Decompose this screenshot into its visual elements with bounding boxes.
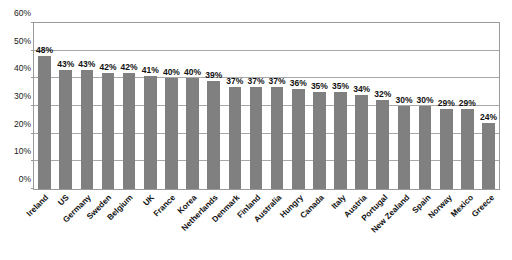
x-axis-label-slot: Finland	[245, 191, 266, 260]
bar-slot: 35%	[330, 23, 351, 189]
y-axis-tick-label: 0%	[19, 174, 31, 184]
y-axis-tick-label: 20%	[14, 119, 31, 129]
x-axis-label: UK	[141, 193, 156, 208]
bar[interactable]: 41%	[144, 76, 157, 189]
bar[interactable]: 42%	[102, 73, 115, 189]
bar-value-label: 43%	[57, 59, 74, 69]
bar-slot: 43%	[76, 23, 97, 189]
bar-value-label: 35%	[332, 81, 349, 91]
bar-slot: 39%	[203, 23, 224, 189]
x-axis-label-slot: Australia	[267, 191, 288, 260]
bar-slot: 37%	[267, 23, 288, 189]
bar-slot: 32%	[372, 23, 393, 189]
bar[interactable]: 43%	[59, 70, 72, 189]
bar-slot: 40%	[182, 23, 203, 189]
bar[interactable]: 37%	[229, 87, 242, 189]
y-axis-tick-label: 30%	[14, 91, 31, 101]
x-axis-label-slot: Norway	[436, 191, 457, 260]
bar-slot: 29%	[457, 23, 478, 189]
x-axis-label: US	[57, 193, 71, 207]
x-axis-label-slot: France	[160, 191, 181, 260]
y-axis-tick-label: 40%	[14, 63, 31, 73]
bar-value-label: 43%	[78, 59, 95, 69]
bar-value-label: 30%	[395, 95, 412, 105]
bar[interactable]: 43%	[81, 70, 94, 189]
bar-slot: 41%	[140, 23, 161, 189]
bar[interactable]: 37%	[271, 87, 284, 189]
x-axis-label-slot: Austria	[352, 191, 373, 260]
x-axis-label-slot: Belgium	[118, 191, 139, 260]
bar[interactable]: 39%	[207, 81, 220, 189]
y-axis-tick-label: 10%	[14, 146, 31, 156]
bar[interactable]: 29%	[440, 109, 453, 189]
x-axis-label-slot: Ireland	[33, 191, 54, 260]
bar-value-label: 39%	[205, 70, 222, 80]
bar[interactable]: 32%	[376, 100, 389, 189]
bar-slot: 24%	[478, 23, 499, 189]
bar[interactable]: 35%	[313, 92, 326, 189]
bar[interactable]: 24%	[482, 123, 495, 189]
bar-slot: 37%	[224, 23, 245, 189]
bar[interactable]: 37%	[250, 87, 263, 189]
bar[interactable]: 34%	[355, 95, 368, 189]
bar-value-label: 40%	[163, 67, 180, 77]
bar[interactable]: 40%	[165, 78, 178, 189]
bar-value-label: 37%	[269, 76, 286, 86]
x-axis-label-slot: Hungry	[288, 191, 309, 260]
bar-value-label: 42%	[121, 62, 138, 72]
bar-value-label: 37%	[226, 76, 243, 86]
bar-slot: 48%	[34, 23, 55, 189]
bar-value-label: 48%	[36, 45, 53, 55]
x-axis-label-slot: Italy	[330, 191, 351, 260]
bar-chart: 0%10%20%30%40%50%60% 48%43%43%42%42%41%4…	[0, 0, 512, 260]
x-axis-label-slot: Spain	[415, 191, 436, 260]
bar[interactable]: 29%	[461, 109, 474, 189]
x-axis-label-slot: UK	[139, 191, 160, 260]
bar-series: 48%43%43%42%42%41%40%40%39%37%37%37%36%3…	[34, 23, 499, 189]
bar-slot: 34%	[351, 23, 372, 189]
bar-slot: 43%	[55, 23, 76, 189]
bar-slot: 35%	[309, 23, 330, 189]
x-axis-label-slot: US	[54, 191, 75, 260]
bar-value-label: 36%	[290, 78, 307, 88]
bar-slot: 42%	[119, 23, 140, 189]
bar-value-label: 42%	[99, 62, 116, 72]
x-axis-labels: IrelandUSGermanySwedenBelgiumUKFranceKor…	[33, 191, 500, 260]
x-axis-label-slot: Mexico	[458, 191, 479, 260]
x-axis-label-slot: Canada	[309, 191, 330, 260]
bar-value-label: 30%	[417, 95, 434, 105]
bar[interactable]: 35%	[334, 92, 347, 189]
bar-slot: 42%	[97, 23, 118, 189]
bar-value-label: 24%	[480, 112, 497, 122]
bar-value-label: 40%	[184, 67, 201, 77]
bar-value-label: 32%	[374, 89, 391, 99]
x-axis-label-slot: Germany	[75, 191, 96, 260]
x-axis-label: Ireland	[25, 193, 50, 218]
bar-value-label: 37%	[247, 76, 264, 86]
bar[interactable]: 30%	[419, 106, 432, 189]
bar-slot: 40%	[161, 23, 182, 189]
bar[interactable]: 42%	[123, 73, 136, 189]
x-axis-label-slot: Denmark	[224, 191, 245, 260]
plot-area: 0%10%20%30%40%50%60% 48%43%43%42%42%41%4…	[33, 22, 500, 190]
bar-slot: 30%	[415, 23, 436, 189]
bar-slot: 30%	[393, 23, 414, 189]
bar[interactable]: 30%	[398, 106, 411, 189]
x-axis-label-slot: Sweden	[97, 191, 118, 260]
x-axis-label-slot: Greece	[479, 191, 500, 260]
bar-slot: 36%	[288, 23, 309, 189]
chart-title	[0, 0, 512, 1]
bar[interactable]: 36%	[292, 89, 305, 189]
y-axis-tick-label: 50%	[14, 36, 31, 46]
y-axis-tick-label: 60%	[14, 8, 31, 18]
bar-value-label: 29%	[438, 98, 455, 108]
bar-value-label: 34%	[353, 84, 370, 94]
bar-value-label: 29%	[459, 98, 476, 108]
bar-value-label: 35%	[311, 81, 328, 91]
bar[interactable]: 40%	[186, 78, 199, 189]
x-axis-label-slot: Netherlands	[203, 191, 224, 260]
bar-slot: 29%	[436, 23, 457, 189]
bar[interactable]: 48%	[38, 56, 51, 189]
bar-slot: 37%	[245, 23, 266, 189]
x-axis-label-slot: New Zealand	[394, 191, 415, 260]
